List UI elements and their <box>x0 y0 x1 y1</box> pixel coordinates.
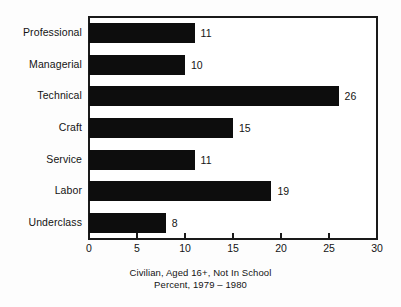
x-tick-label: 20 <box>275 242 287 255</box>
x-tick-label: 0 <box>86 242 92 255</box>
x-tick-mark <box>328 233 330 240</box>
x-tick-label: 25 <box>323 242 335 255</box>
bar <box>89 150 195 170</box>
category-label: Labor <box>0 184 82 196</box>
chart-caption: Civilian, Aged 16+, Not In School Percen… <box>0 267 401 291</box>
x-tick-mark <box>232 233 234 240</box>
category-label: Professional <box>0 26 82 38</box>
bar-value-label: 15 <box>239 122 251 134</box>
bar-value-label: 11 <box>201 27 212 39</box>
bar <box>89 181 271 201</box>
bar <box>89 23 195 43</box>
category-label: Technical <box>0 89 82 101</box>
x-tick-mark <box>184 233 186 240</box>
bar-value-label: 19 <box>277 185 289 197</box>
bar <box>89 86 339 106</box>
x-tick-label: 5 <box>134 242 140 255</box>
category-axis: ProfessionalManagerialTechnicalCraftServ… <box>0 16 82 240</box>
bar-value-label: 10 <box>191 59 203 71</box>
bar <box>89 118 233 138</box>
category-label: Underclass <box>0 216 82 228</box>
chart-figure: ProfessionalManagerialTechnicalCraftServ… <box>0 0 401 307</box>
bar-value-label: 26 <box>345 90 357 102</box>
bars-layer: 1110261511198 <box>89 17 377 239</box>
bar-value-label: 11 <box>201 154 212 166</box>
bar <box>89 213 166 233</box>
x-tick-mark <box>136 233 138 240</box>
x-tick-label: 30 <box>371 242 383 255</box>
caption-line-2: Percent, 1979 – 1980 <box>0 279 401 291</box>
category-label: Service <box>0 153 82 165</box>
x-tick-label: 15 <box>227 242 239 255</box>
x-tick-label: 10 <box>179 242 191 255</box>
category-label: Craft <box>0 121 82 133</box>
bar-value-label: 8 <box>172 217 178 229</box>
caption-line-1: Civilian, Aged 16+, Not In School <box>0 267 401 279</box>
bar <box>89 55 185 75</box>
category-label: Managerial <box>0 58 82 70</box>
x-axis-ticks <box>88 232 378 240</box>
x-tick-mark <box>280 233 282 240</box>
x-axis-tick-labels: 051015202530 <box>88 242 378 258</box>
